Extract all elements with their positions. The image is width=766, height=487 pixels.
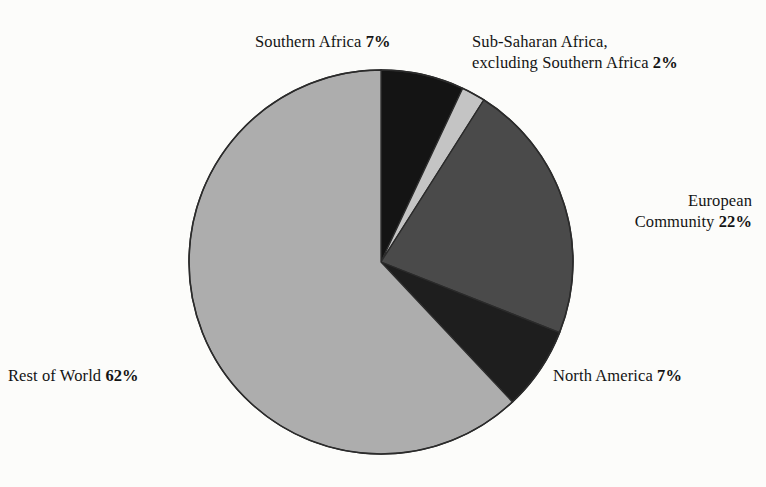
slice-value-european-community: 22% <box>719 212 752 231</box>
pie-slice-group <box>189 70 573 454</box>
pie-chart-graphic <box>0 0 766 487</box>
slice-label-european-community: European Community 22% <box>520 190 752 232</box>
slice-value-rest-of-world: 62% <box>105 366 138 385</box>
slice-label-southern-africa-text: Southern Africa <box>255 32 366 51</box>
slice-label-european-community-line1: European <box>688 191 752 210</box>
slice-label-southern-africa: Southern Africa 7% <box>255 31 391 52</box>
slice-label-rest-of-world: Rest of World 62% <box>8 365 139 386</box>
slice-label-rest-of-world-text: Rest of World <box>8 366 105 385</box>
slice-label-north-america: North America 7% <box>553 365 682 386</box>
slice-label-sub-saharan-africa-line2: excluding Southern Africa <box>472 53 653 72</box>
slice-label-sub-saharan-africa-line1: Sub-Saharan Africa, <box>472 32 608 51</box>
pie-chart-figure: Southern Africa 7% Sub-Saharan Africa, e… <box>0 0 766 487</box>
slice-label-european-community-line2: Community <box>635 212 719 231</box>
slice-value-sub-saharan-africa: 2% <box>653 53 678 72</box>
slice-label-sub-saharan-africa: Sub-Saharan Africa, excluding Southern A… <box>472 31 762 73</box>
slice-value-southern-africa: 7% <box>366 32 391 51</box>
slice-value-north-america: 7% <box>657 366 682 385</box>
slice-label-north-america-text: North America <box>553 366 657 385</box>
